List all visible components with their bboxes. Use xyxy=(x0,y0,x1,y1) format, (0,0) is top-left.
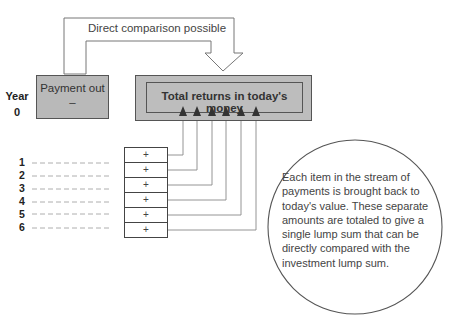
year-zero: 0 xyxy=(4,104,30,120)
comparison-label: Direct comparison possible xyxy=(88,22,226,34)
connector-lines xyxy=(168,115,256,230)
payment-out-title: Payment out xyxy=(37,81,108,95)
payment-out-box: Payment out – xyxy=(36,75,109,119)
year-title: Year xyxy=(4,88,30,104)
year-label-6: 6 xyxy=(19,221,25,233)
total-returns-box: Total returns in today's money xyxy=(135,75,312,121)
dashed-leaders xyxy=(32,163,112,228)
stream-cell-2: + xyxy=(124,162,168,177)
explanation-note: Each item in the stream of payments is b… xyxy=(282,170,432,270)
payment-out-sign: – xyxy=(37,95,108,109)
year-label-5: 5 xyxy=(19,208,25,220)
year-label-2: 2 xyxy=(19,169,25,181)
year-label-4: 4 xyxy=(19,195,25,207)
stream-cell-5: + xyxy=(124,207,168,222)
stream-cell-6: + xyxy=(124,222,168,238)
year-label: Year 0 xyxy=(4,88,30,120)
year-label-3: 3 xyxy=(19,182,25,194)
stream-cell-4: + xyxy=(124,192,168,207)
stream-cell-1: + xyxy=(124,147,168,162)
year-label-1: 1 xyxy=(19,156,25,168)
stream-cell-3: + xyxy=(124,177,168,192)
total-returns-inner: Total returns in today's money xyxy=(146,82,303,113)
total-returns-label: Total returns in today's money xyxy=(147,90,302,114)
payment-stream-stack: + + + + + + xyxy=(124,147,168,238)
